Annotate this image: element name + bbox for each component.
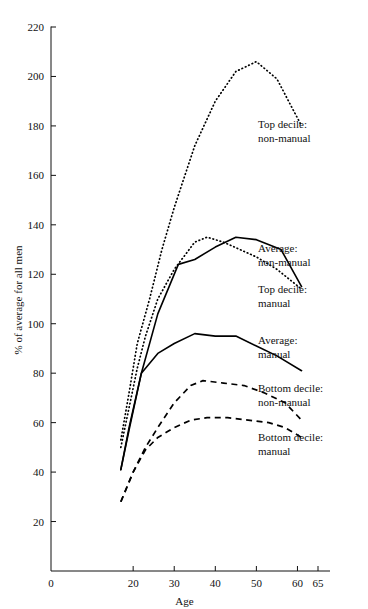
ann-top-decile-non-manual-line: Top decile: <box>258 118 307 130</box>
ann-top-decile-non-manual-line: non-manual <box>258 132 311 144</box>
y-tick-label: 40 <box>33 466 45 478</box>
x-axis-title: Age <box>175 595 193 607</box>
ann-bottom-decile-manual-line: Bottom decile: <box>258 431 323 443</box>
chart-figure: 20406080100120140160180200220 0203040506… <box>0 0 368 609</box>
y-axis-title: % of average for all men <box>12 245 24 355</box>
y-tick-label: 20 <box>33 516 45 528</box>
ann-bottom-decile-non-manual-line: non-manual <box>258 396 311 408</box>
y-tick-label: 220 <box>28 21 45 33</box>
ann-average-manual-line: manual <box>258 348 290 360</box>
y-tick-label: 200 <box>28 70 45 82</box>
x-tick-label: 30 <box>169 577 181 589</box>
x-tick-label: 40 <box>210 577 222 589</box>
ann-bottom-decile-non-manual-line: Bottom decile: <box>258 382 323 394</box>
y-tick-label: 120 <box>28 268 45 280</box>
ann-average-non-manual-line: non-manual <box>258 256 311 268</box>
y-tick-label: 100 <box>28 318 45 330</box>
x-tick-label: 50 <box>251 577 263 589</box>
x-tick-label: 0 <box>48 577 54 589</box>
x-tick-label: 60 <box>292 577 304 589</box>
ann-average-non-manual-line: Average: <box>258 242 298 254</box>
y-tick-label: 140 <box>28 219 45 231</box>
x-tick-label: 65 <box>313 577 325 589</box>
y-tick-label: 180 <box>28 120 45 132</box>
ann-top-decile-manual-line: manual <box>258 297 290 309</box>
ann-top-decile-manual-line: Top decile: <box>258 283 307 295</box>
chart-background <box>0 0 368 609</box>
line-chart-canvas: 20406080100120140160180200220 0203040506… <box>0 0 368 609</box>
y-tick-label: 160 <box>28 169 45 181</box>
x-tick-label: 20 <box>128 577 140 589</box>
y-tick-label: 80 <box>33 367 45 379</box>
ann-bottom-decile-manual-line: manual <box>258 445 290 457</box>
y-tick-label: 60 <box>33 417 45 429</box>
ann-average-manual-line: Average: <box>258 334 298 346</box>
